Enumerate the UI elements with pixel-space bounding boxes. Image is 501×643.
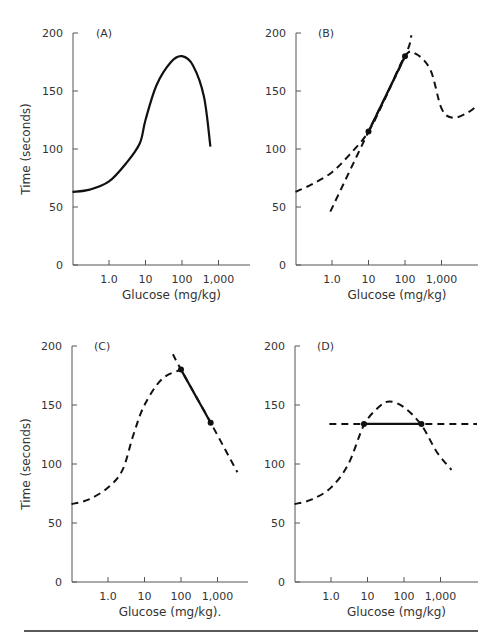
y-tick-label: 100	[42, 143, 63, 156]
x-tick-label: 1.0	[322, 590, 340, 603]
series-segment	[181, 370, 211, 423]
panel-label: (C)	[94, 340, 110, 353]
x-tick-label: 1.0	[323, 273, 341, 286]
data-point	[418, 421, 424, 427]
y-tick-label: 0	[56, 259, 63, 272]
y-tick-label: 200	[42, 27, 63, 40]
y-tick-label: 150	[265, 85, 286, 98]
data-point	[402, 53, 408, 59]
series-segment	[369, 56, 406, 131]
x-tick-label: 1.0	[100, 273, 118, 286]
data-point	[361, 421, 367, 427]
series-curve	[296, 51, 479, 191]
x-axis-title: Glucose (mg/kg)	[347, 605, 446, 619]
y-tick-label: 50	[49, 201, 63, 214]
panel-label: (B)	[318, 27, 334, 40]
y-axis-title: Time (seconds)	[19, 103, 33, 196]
x-axis-title: Glucose (mg/kg).	[119, 605, 222, 619]
y-tick-label: 100	[265, 143, 286, 156]
x-tick-label: 1,000	[203, 273, 235, 286]
y-axis-title: Time (seconds)	[19, 418, 33, 511]
y-tick-label: 200	[41, 340, 62, 353]
x-tick-label: 1,000	[425, 590, 457, 603]
x-tick-label: 1,000	[202, 590, 234, 603]
data-point	[208, 420, 214, 426]
x-tick-label: 100	[172, 273, 193, 286]
panel-a: 0501001502001.0101001,000Glucose (mg/kg)…	[19, 27, 250, 302]
x-axis-title: Glucose (mg/kg)	[122, 288, 221, 302]
y-tick-label: 0	[279, 259, 286, 272]
x-tick-label: 10	[362, 273, 376, 286]
x-tick-label: 100	[171, 590, 192, 603]
x-tick-label: 1.0	[99, 590, 117, 603]
data-point	[178, 367, 184, 373]
y-tick-label: 200	[265, 27, 286, 40]
figure: 0501001502001.0101001,000Glucose (mg/kg)…	[0, 0, 501, 643]
x-tick-label: 100	[394, 590, 415, 603]
y-tick-label: 50	[48, 517, 62, 530]
panel-c: 0501001502001.0101001,000Glucose (mg/kg)…	[19, 340, 248, 619]
series-curve	[72, 370, 182, 505]
y-tick-label: 100	[41, 458, 62, 471]
data-point	[366, 129, 372, 135]
x-axis-title: Glucose (mg/kg)	[348, 288, 447, 302]
panel-b: 0501001502001.0101001,000Glucose (mg/kg)…	[265, 27, 478, 302]
series-tangent-extension	[330, 35, 411, 211]
y-tick-label: 150	[42, 85, 63, 98]
x-tick-label: 10	[361, 590, 375, 603]
y-tick-label: 200	[264, 340, 285, 353]
panel-d: 0501001502001.0101001,000Glucose (mg/kg)…	[264, 340, 478, 619]
x-tick-label: 10	[138, 590, 152, 603]
x-tick-label: 10	[139, 273, 153, 286]
y-tick-label: 50	[271, 517, 285, 530]
panel-label: (D)	[317, 340, 334, 353]
y-tick-label: 100	[264, 458, 285, 471]
y-tick-label: 150	[41, 399, 62, 412]
series-dose-response	[73, 56, 211, 192]
y-tick-label: 0	[278, 576, 285, 589]
panel-label: (A)	[96, 27, 112, 40]
x-tick-label: 100	[395, 273, 416, 286]
x-tick-label: 1,000	[426, 273, 458, 286]
series-curve	[295, 401, 452, 504]
y-tick-label: 50	[272, 201, 286, 214]
y-tick-label: 0	[55, 576, 62, 589]
y-tick-label: 150	[264, 399, 285, 412]
